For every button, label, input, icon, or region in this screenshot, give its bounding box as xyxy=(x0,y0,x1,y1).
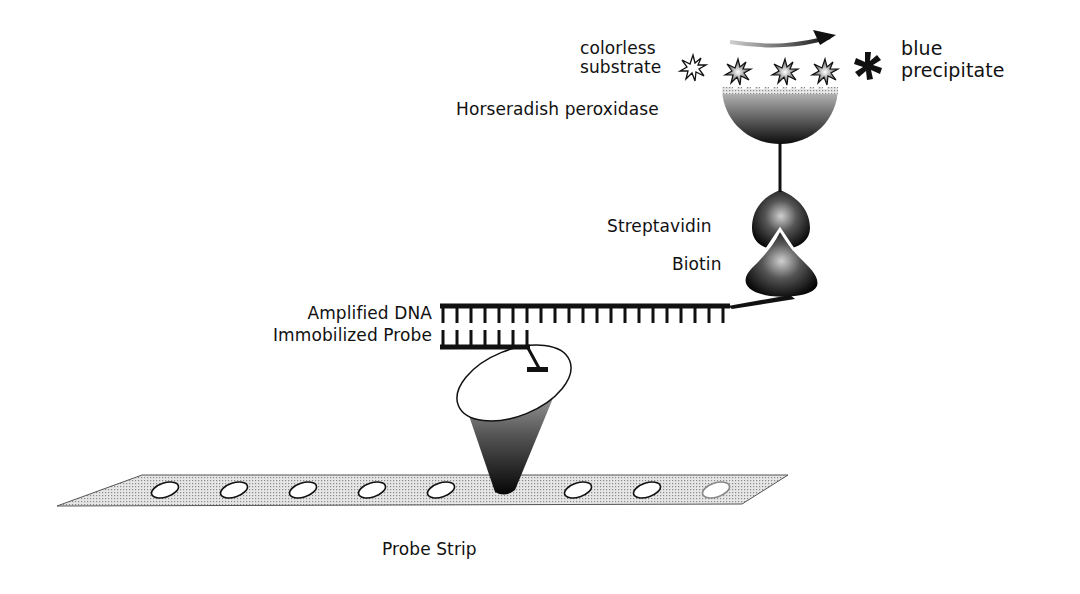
asterisk-solid-icon xyxy=(854,52,882,80)
probe-strip xyxy=(57,475,788,506)
label-blue-precipitate: blue precipitate xyxy=(901,37,1005,81)
label-colorless: colorless xyxy=(580,39,661,58)
label-colorless-substrate: colorless substrate xyxy=(580,39,661,77)
label-blue: blue xyxy=(901,37,1005,59)
probe-spot-cone xyxy=(446,330,582,495)
label-streptavidin: Streptavidin xyxy=(607,217,712,236)
label-biotin: Biotin xyxy=(672,255,722,274)
asterisk-outline-icon xyxy=(680,55,706,81)
biotin-shape xyxy=(746,232,818,297)
hrp-enzyme-shape xyxy=(722,84,838,144)
reaction-arrow-icon xyxy=(730,30,836,45)
asterisk-shaded-icon xyxy=(725,59,838,85)
label-horseradish-peroxidase: Horseradish peroxidase xyxy=(456,100,659,119)
label-probe-strip: Probe Strip xyxy=(382,540,477,559)
label-substrate: substrate xyxy=(580,58,661,77)
label-amplified-dna: Amplified DNA xyxy=(236,304,432,323)
label-immobilized-probe: Immobilized Probe xyxy=(210,326,432,345)
amplified-dna-strand xyxy=(440,295,795,323)
label-precipitate: precipitate xyxy=(901,59,1005,81)
diagram-canvas xyxy=(0,0,1080,594)
immobilized-probe-strand xyxy=(440,330,530,347)
